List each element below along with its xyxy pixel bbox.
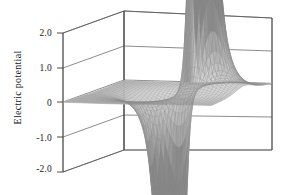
surface-mesh: [63, 0, 272, 195]
surface-plot-canvas: [0, 0, 286, 195]
figure-electric-potential-surface-plot: Electric potential 2.0 1.0 0 -1.0 -2.0: [0, 0, 286, 195]
z-axis-ticks: [57, 33, 63, 172]
